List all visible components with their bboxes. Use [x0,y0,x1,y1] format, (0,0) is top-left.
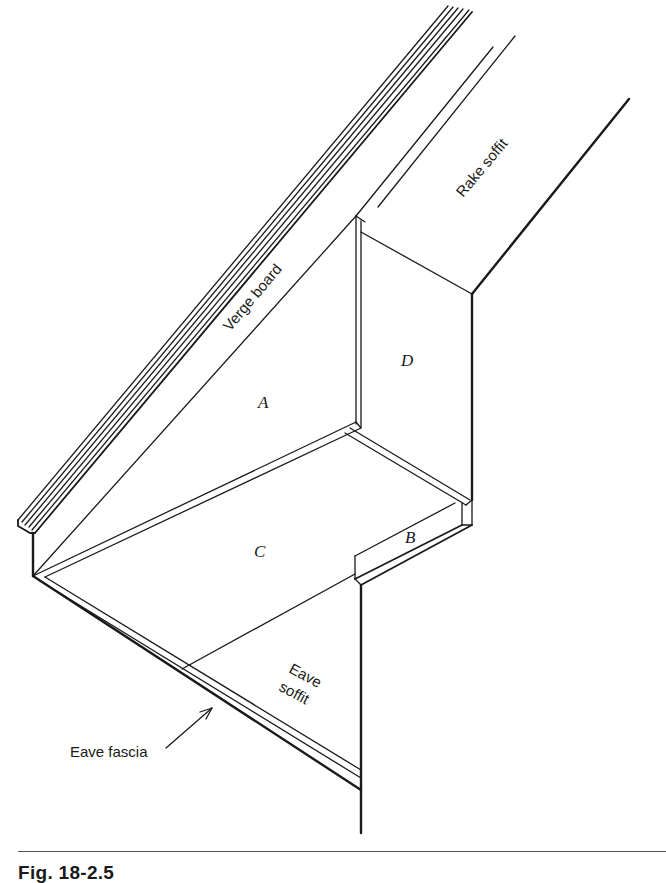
panel-b-label: B [405,528,416,547]
panel-a-label: A [257,393,269,412]
caption-divider [18,851,666,852]
figure-caption: Fig. 18-2.5 [18,862,114,883]
eave-fascia-label: Eave fascia [70,743,148,760]
eave-soffit-edge [182,574,355,669]
panel-d-label: D [400,351,414,370]
rake-soffit-label: Rake soffit [452,134,511,200]
diagram-canvas: Verge board Rake soffit Eave soffit Eave… [0,0,666,883]
verge-board-label: Verge board [219,260,285,334]
verge-board [33,36,515,576]
roof-overhang-diagram: Verge board Rake soffit Eave soffit Eave… [0,0,666,883]
eave-fascia-arrow [166,708,212,748]
panel-c-label: C [254,542,266,561]
verge-board-molding [18,6,472,533]
